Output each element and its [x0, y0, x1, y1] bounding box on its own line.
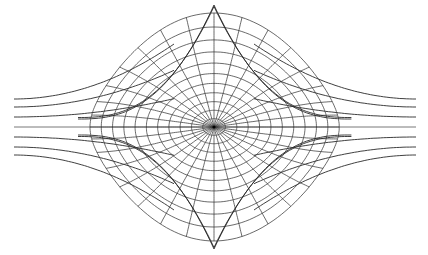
conformal-grid-figure: [0, 0, 428, 255]
wing-line: [14, 70, 174, 107]
center-point: [212, 125, 215, 128]
wing-line: [254, 70, 416, 107]
diagram-canvas: [0, 0, 428, 255]
cusp-curve: [78, 7, 351, 118]
wing-line: [254, 44, 416, 99]
radial-line: [214, 86, 323, 127]
radial-line: [214, 127, 323, 168]
wing-line: [254, 147, 416, 184]
radial-line: [106, 127, 214, 168]
wing-line: [14, 147, 174, 184]
wing-line: [254, 155, 416, 210]
radial-line: [106, 86, 214, 127]
cusp-curve: [78, 137, 351, 248]
